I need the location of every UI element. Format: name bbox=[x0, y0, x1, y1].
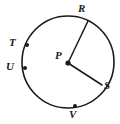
point-label-u: U bbox=[6, 61, 14, 72]
point-label-r: R bbox=[78, 3, 85, 14]
point-label-t: T bbox=[9, 37, 16, 48]
radius-pr-line bbox=[68, 21, 88, 63]
point-label-s: S bbox=[104, 80, 110, 91]
radius-ps-line bbox=[68, 63, 102, 85]
point-dot-t bbox=[25, 43, 29, 47]
point-label-v: V bbox=[69, 109, 76, 120]
center-label-p: P bbox=[55, 50, 62, 61]
point-dot-u bbox=[23, 66, 27, 70]
geometry-figure: R S T U V P bbox=[0, 0, 120, 124]
circle-diagram-svg bbox=[0, 0, 120, 124]
center-point-dot-p bbox=[65, 60, 70, 65]
